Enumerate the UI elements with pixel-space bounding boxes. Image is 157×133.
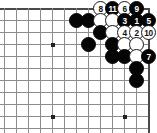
stone-black [81, 37, 96, 52]
go-board-diagram: 8116931542107 [0, 0, 157, 133]
board-stones: 8116931542107 [0, 0, 157, 133]
stone-black [129, 73, 144, 88]
stone-white-move-10: 10 [141, 25, 156, 40]
stone-black-move-7: 7 [141, 49, 156, 64]
stone-move-number: 10 [143, 26, 155, 40]
stone-move-number: 7 [143, 50, 155, 64]
